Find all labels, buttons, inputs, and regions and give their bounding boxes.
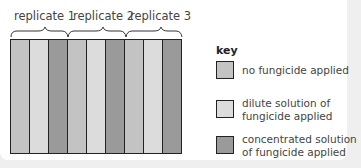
diagram-card: replicate 1 replicate 2 replicate 3 key … (0, 0, 347, 160)
field-plot (10, 39, 182, 154)
strip-concentrated-rep3 (163, 40, 181, 153)
key-item-dilute: dilute solution of fungicide applied (216, 97, 352, 123)
strip-none-rep1 (11, 40, 30, 153)
strip-concentrated-rep2 (106, 40, 125, 153)
swatch-icon (216, 61, 234, 79)
strip-dilute-rep1 (30, 40, 49, 153)
key-title: key (216, 44, 238, 57)
swatch-icon (216, 136, 234, 154)
strip-none-rep3 (125, 40, 144, 153)
key-label: no fungicide applied (242, 64, 352, 77)
strip-dilute-rep3 (144, 40, 163, 153)
key-label: concentrated solution of fungicide appli… (242, 133, 361, 159)
replicate-braces (8, 26, 198, 38)
key-item-concentrated: concentrated solution of fungicide appli… (216, 133, 361, 159)
key-item-no-fungicide: no fungicide applied (216, 61, 352, 79)
replicate-3-label: replicate 3 (130, 9, 191, 23)
key-label: dilute solution of fungicide applied (242, 97, 352, 123)
swatch-icon (216, 100, 234, 118)
strip-concentrated-rep1 (49, 40, 68, 153)
replicate-2-label: replicate 2 (73, 9, 134, 23)
strip-dilute-rep2 (87, 40, 106, 153)
replicate-1-label: replicate 1 (14, 9, 75, 23)
strip-none-rep2 (68, 40, 87, 153)
